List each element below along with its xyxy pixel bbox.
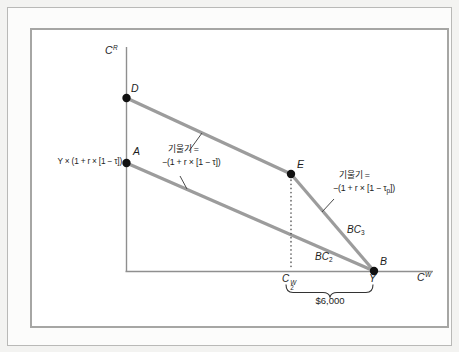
c2w-tick-label: CW2 xyxy=(282,273,296,291)
point-B-label: B xyxy=(380,256,387,268)
bc2-label: BC2 xyxy=(315,251,333,263)
slope-label-right-line2: −(1 + r × [1 − τp]) xyxy=(333,182,395,198)
slope-label-mid-line2: −(1 + r × [1 − τ]) xyxy=(162,156,221,169)
slope-label-mid: 기울기 = −(1 + r × [1 − τ]) xyxy=(162,143,221,168)
slope-label-mid-line1: 기울기 = xyxy=(168,143,221,156)
point-Y-label: Y xyxy=(369,273,376,285)
slope-label-right-line1: 기울기 = xyxy=(339,169,395,182)
slope-label-right: 기울기 = −(1 + r × [1 − τp]) xyxy=(333,169,395,197)
y-intercept-formula: Y × (1 + r × [1 − τ]) xyxy=(30,157,122,166)
point-D-label: D xyxy=(131,83,139,95)
figure-canvas: CR CW D A E B Y Y × (1 + r × [1 − τ]) 기울… xyxy=(0,0,459,352)
point-A-label: A xyxy=(133,146,140,158)
x-axis-label: CW xyxy=(417,271,431,284)
point-E-label: E xyxy=(297,159,304,171)
bc3-label: BC3 xyxy=(347,224,365,236)
brace-amount-label: $6,000 xyxy=(305,296,355,306)
y-axis-label: CR xyxy=(105,44,118,57)
